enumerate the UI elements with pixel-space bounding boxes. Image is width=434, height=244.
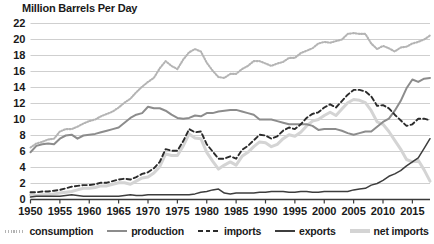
x-axis-tick-label: 2015: [400, 205, 424, 217]
legend-swatch-imports-icon: [198, 230, 220, 232]
y-axis-tick-label: 2: [19, 177, 25, 189]
legend-label: production: [131, 225, 184, 237]
x-axis-tick-label: 1975: [165, 205, 189, 217]
gridlines: [31, 24, 431, 184]
series-line-imports: [31, 90, 431, 192]
x-axis-tick-label: 1985: [224, 205, 248, 217]
x-axis-tick-label: 1965: [106, 205, 130, 217]
series-line-net-imports: [31, 100, 431, 196]
series-line-consumption: [31, 33, 431, 147]
x-axis-tick-label: 2005: [341, 205, 365, 217]
y-axis-tick-label: 20: [13, 33, 25, 45]
x-axis-tick-label: 1970: [136, 205, 160, 217]
x-axis-tick-label: 1995: [283, 205, 307, 217]
x-axis-tick-labels: 1950195519601965197019751980198519901995…: [18, 200, 424, 217]
y-axis-tick-label: 16: [13, 65, 25, 77]
y-axis-tick-label: 6: [19, 145, 25, 157]
series-line-production: [31, 78, 431, 152]
x-axis-tick-label: 1955: [48, 205, 72, 217]
x-axis-tick-label: 1980: [195, 205, 219, 217]
x-axis-tick-label: 2010: [371, 205, 395, 217]
y-axis-tick-label: 18: [13, 49, 25, 61]
x-axis-tick-label: 2000: [312, 205, 336, 217]
legend-label: net imports: [374, 225, 429, 237]
legend-item-exports[interactable]: exports: [275, 225, 336, 237]
legend-item-production[interactable]: production: [107, 225, 184, 237]
legend-swatch-consumption-icon: [5, 230, 25, 233]
y-axis-tick-label: 22: [13, 17, 25, 29]
data-series-lines: [31, 33, 431, 197]
legend-item-net-imports[interactable]: net imports: [350, 225, 429, 237]
y-axis-tick-label: 14: [13, 81, 26, 93]
legend-item-consumption[interactable]: consumption: [5, 225, 93, 237]
legend-swatch-exports-icon: [275, 230, 295, 233]
x-axis-tick-label: 1960: [77, 205, 101, 217]
legend-swatch-production-icon: [107, 230, 127, 233]
y-axis-tick-label: 10: [13, 113, 25, 125]
y-axis-tick-labels: 0246810121416182022: [13, 17, 26, 205]
y-axis-tick-label: 4: [19, 161, 26, 173]
legend-swatch-net-imports-icon: [350, 229, 370, 233]
chart-legend: consumptionproductionimportsexportsnet i…: [0, 221, 434, 241]
legend-label: exports: [299, 225, 336, 237]
chart-plot-area: 0246810121416182022 19501955196019651970…: [0, 0, 434, 244]
legend-item-imports[interactable]: imports: [198, 225, 261, 237]
legend-label: consumption: [29, 225, 93, 237]
y-axis-tick-label: 8: [19, 129, 25, 141]
y-axis-tick-label: 12: [13, 97, 25, 109]
x-axis-tick-label: 1950: [18, 205, 42, 217]
x-axis-tick-label: 1990: [253, 205, 277, 217]
chart-container: Million Barrels Per Day 0246810121416182…: [0, 0, 434, 244]
legend-label: imports: [224, 225, 261, 237]
